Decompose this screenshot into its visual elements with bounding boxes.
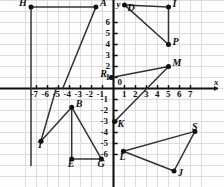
- y-tick-label--3: -3: [101, 117, 109, 126]
- point-label-L: L: [119, 152, 125, 162]
- point-label-D: D: [128, 3, 135, 13]
- y-tick-label-4: 4: [106, 40, 111, 49]
- y-tick-label--4: -4: [101, 128, 109, 137]
- point-label-K: K: [118, 119, 125, 129]
- x-tick-label-1: 1: [122, 90, 127, 99]
- x-tick-label-5: 5: [166, 90, 171, 99]
- point-label-J: J: [178, 168, 183, 178]
- y-tick-label--1: -1: [101, 95, 109, 104]
- point-label-R: R: [100, 69, 107, 79]
- point-H: [29, 5, 34, 10]
- point-label-T: T: [37, 140, 43, 150]
- point-A: [93, 5, 98, 10]
- y-tick-label--2: -2: [101, 106, 109, 115]
- point-label-B: B: [76, 99, 83, 109]
- y-axis-label: y: [117, 0, 121, 9]
- point-label-H: H: [19, 0, 27, 8]
- point-K: [112, 119, 117, 124]
- point-B: [69, 105, 74, 110]
- point-label-M: M: [173, 58, 182, 68]
- segment-A-foot: [63, 7, 96, 88]
- point-D: [122, 2, 127, 7]
- point-label-I: I: [173, 0, 177, 9]
- point-P: [166, 42, 171, 47]
- coordinate-plane-figure: -7-6-5-4-3-2-11234567654321-1-2-3-4-5-60…: [0, 0, 224, 187]
- x-tick-label-3: 3: [144, 90, 149, 99]
- point-label-A: A: [100, 0, 107, 8]
- segment-L-S: [123, 131, 194, 151]
- segment-B-G: [72, 107, 102, 159]
- point-label-S: S: [192, 122, 198, 132]
- x-tick-label--6: -6: [42, 90, 50, 99]
- point-label-G: G: [97, 159, 104, 169]
- y-tick-label-3: 3: [106, 51, 111, 60]
- x-axis-label: x: [214, 78, 219, 87]
- y-tick-label-6: 6: [106, 18, 111, 27]
- x-tick-label-2: 2: [133, 90, 138, 99]
- x-tick-label-7: 7: [188, 90, 193, 99]
- x-tick-label--7: -7: [31, 90, 39, 99]
- x-tick-label--2: -2: [86, 90, 94, 99]
- x-tick-label--5: -5: [53, 90, 61, 99]
- point-I: [166, 5, 171, 10]
- point-label-E: E: [68, 159, 75, 169]
- origin-label: 0: [118, 78, 123, 87]
- x-tick-label-6: 6: [177, 90, 182, 99]
- point-label-P: P: [173, 37, 179, 47]
- y-tick-label--5: -5: [101, 139, 109, 148]
- y-tick-label-5: 5: [106, 29, 111, 38]
- x-tick-label-4: 4: [155, 90, 160, 99]
- point-M: [166, 64, 171, 69]
- x-tick-label--4: -4: [64, 90, 72, 99]
- point-J: [172, 169, 177, 174]
